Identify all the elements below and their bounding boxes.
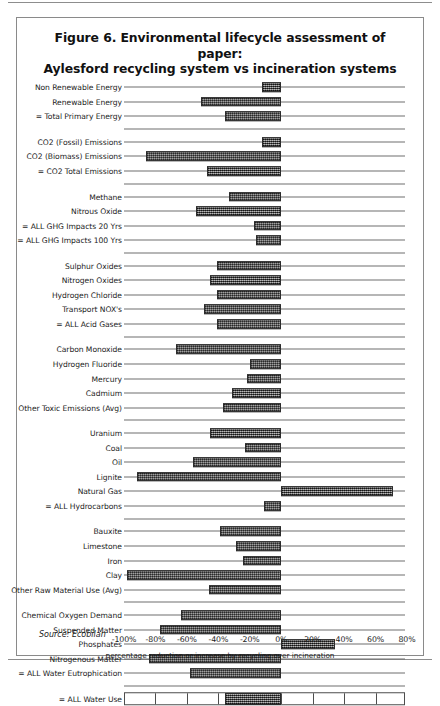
category-label-oil: Oil [112, 458, 122, 467]
bar-all-water-eutrophication [190, 669, 281, 679]
group-spacer [17, 124, 423, 135]
chart-row-lignite: Lignite [17, 470, 423, 485]
chart-row-renewable-energy: Renewable Energy [17, 95, 423, 110]
bar-other-raw-material-use-avg [209, 585, 281, 595]
chart-row-all-water-use: = ALL Water Use [17, 692, 423, 706]
chart-row-total-primary-energy: = Total Primary Energy [17, 109, 423, 124]
group-spacer [17, 178, 423, 189]
category-label-lignite: Lignite [97, 472, 122, 481]
bar-renewable-energy [201, 97, 281, 107]
x-tick-label-80: 80% [398, 635, 415, 644]
category-label-coal: Coal [105, 443, 122, 452]
bar-cadmium [232, 388, 281, 398]
category-label-all-acid-gases: = ALL Acid Gases [56, 319, 122, 328]
category-label-mercury: Mercury [92, 374, 122, 383]
chart-row-all-hydrocarbons: = ALL Hydrocarbons [17, 499, 423, 514]
bar-non-renewable-energy [262, 82, 281, 92]
category-label-total-primary-energy: = Total Primary Energy [36, 112, 122, 121]
spacer-leader-line [124, 518, 405, 519]
category-label-co2-total-emissions: = CO2 Total Emissions [38, 167, 122, 176]
bar-bauxite [220, 527, 281, 537]
category-label-co2-fossil-emissions: CO2 (Fossil) Emissions [38, 137, 122, 146]
x-tick-label-0: 0% [275, 635, 287, 644]
chart-row-coal: Coal [17, 440, 423, 455]
chart-row-all-ghg-impacts-20-yrs: = ALL GHG Impacts 20 Yrs [17, 218, 423, 233]
x-axis-tick [313, 693, 314, 705]
bar-suspended-matter [160, 625, 281, 635]
bar-iron [243, 556, 281, 566]
spacer-leader-line [124, 183, 405, 184]
bar-clay [127, 570, 281, 580]
chart-row-all-ghg-impacts-100-yrs: = ALL GHG Impacts 100 Yrs [17, 233, 423, 248]
chart-row-chemical-oxygen-demand: Chemical Oxygen Demand [17, 608, 423, 623]
chart-row-limestone: Limestone [17, 539, 423, 554]
spacer-leader-line [124, 686, 405, 687]
group-spacer [17, 597, 423, 608]
category-label-cadmium: Cadmium [86, 389, 122, 398]
chart-row-all-acid-gases: = ALL Acid Gases [17, 317, 423, 332]
chart-row-natural-gas: Natural Gas [17, 484, 423, 499]
bar-other-toxic-emissions-avg [223, 403, 281, 413]
bar-methane [229, 192, 281, 202]
category-label-sulphur-oxides: Sulphur Oxides [65, 261, 122, 270]
bar-all-water-use [225, 693, 282, 705]
x-tick-label-neg80: -80% [146, 635, 166, 644]
bar-carbon-monoxide [176, 345, 281, 355]
chart-row-nitrous-oxide: Nitrous Oxide [17, 204, 423, 219]
source-note: Source: Ecobilan [39, 630, 106, 639]
bar-nitrous-oxide [196, 206, 281, 216]
chart-row-bauxite: Bauxite [17, 524, 423, 539]
chart-rows: Non Renewable EnergyRenewable Energy= To… [17, 80, 423, 706]
chart-row-hydrogen-fluoride: Hydrogen Fluoride [17, 357, 423, 372]
x-tick-label-40: 40% [336, 635, 353, 644]
bar-chemical-oxygen-demand [181, 610, 282, 620]
category-label-all-water-use: = ALL Water Use [59, 694, 122, 703]
x-tick-label-neg40: -40% [208, 635, 228, 644]
bar-total-primary-energy [225, 112, 282, 122]
x-axis-tick [218, 693, 219, 705]
group-spacer [17, 513, 423, 524]
bar-uranium [210, 428, 281, 438]
category-label-natural-gas: Natural Gas [78, 487, 122, 496]
group-spacer [17, 247, 423, 258]
chart-row-co2-biomass-emissions: CO2 (Biomass) Emissions [17, 149, 423, 164]
page-rule-top [8, 2, 432, 3]
bar-all-acid-gases [217, 319, 281, 329]
bar-sulphur-oxides [217, 261, 281, 271]
spacer-leader-line [124, 129, 405, 130]
category-label-carbon-monoxide: Carbon Monoxide [56, 345, 122, 354]
x-axis-tick [187, 693, 188, 705]
chart-row-sulphur-oxides: Sulphur Oxides [17, 258, 423, 273]
category-label-nitrogen-oxides: Nitrogen Oxides [62, 276, 122, 285]
category-label-other-raw-material-use-avg: Other Raw Material Use (Avg) [11, 585, 122, 594]
x-axis-tick [376, 693, 377, 705]
chart-plot-area: Non Renewable EnergyRenewable Energy= To… [17, 18, 423, 655]
bar-limestone [236, 541, 282, 551]
x-axis-tick [155, 693, 156, 705]
category-label-iron: Iron [108, 556, 122, 565]
x-tick-label-neg60: -60% [177, 635, 197, 644]
category-label-clay: Clay [106, 571, 122, 580]
chart-row-cadmium: Cadmium [17, 386, 423, 401]
category-label-all-ghg-impacts-100-yrs: = ALL GHG Impacts 100 Yrs [17, 236, 122, 245]
x-axis-tick [344, 693, 345, 705]
chart-row-methane: Methane [17, 189, 423, 204]
category-label-hydrogen-fluoride: Hydrogen Fluoride [53, 360, 122, 369]
x-tick-label-60: 60% [367, 635, 384, 644]
category-label-limestone: Limestone [83, 542, 122, 551]
group-spacer [17, 415, 423, 426]
bar-co2-fossil-emissions [262, 137, 281, 147]
chart-row-transport-nox-s: Transport NOX's [17, 302, 423, 317]
spacer-leader-line [124, 252, 405, 253]
bar-co2-biomass-emissions [146, 152, 281, 162]
bar-oil [193, 458, 281, 468]
chart-row-carbon-monoxide: Carbon Monoxide [17, 342, 423, 357]
x-tick-label-neg100: -100% [112, 635, 137, 644]
chart-row-co2-fossil-emissions: CO2 (Fossil) Emissions [17, 135, 423, 150]
bar-co2-total-emissions [207, 166, 281, 176]
group-spacer [17, 681, 423, 692]
chart-row-iron: Iron [17, 553, 423, 568]
group-spacer [17, 331, 423, 342]
x-axis-label: percentage reduction or increase by recy… [17, 651, 423, 660]
